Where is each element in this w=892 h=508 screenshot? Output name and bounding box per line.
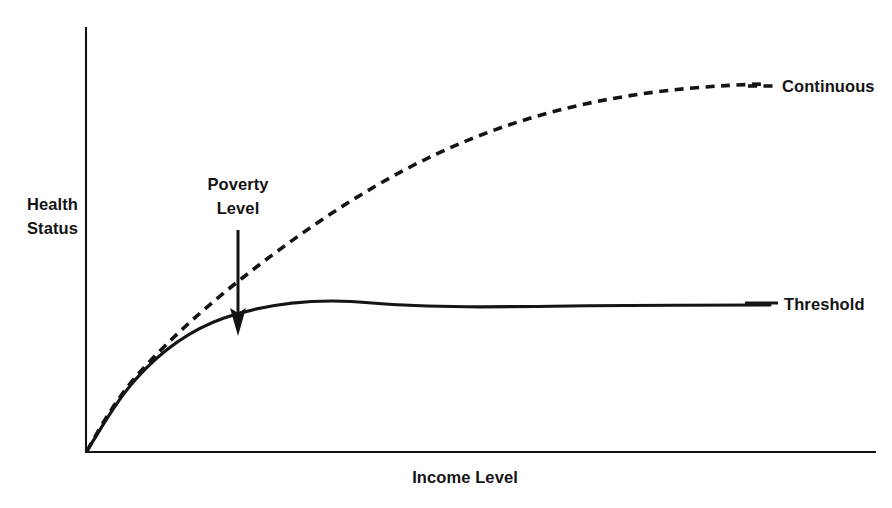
chart-canvas: [0, 0, 892, 508]
poverty-level-annotation: Poverty Level: [178, 172, 298, 220]
y-axis-title: Health Status: [0, 192, 78, 240]
poverty-level-line-1: Poverty: [178, 172, 298, 196]
poverty-level-line-2: Level: [178, 196, 298, 220]
threshold-curve: [87, 301, 770, 451]
y-axis-title-line-2: Status: [0, 216, 78, 240]
threshold-series-label: Threshold: [784, 294, 865, 315]
x-axis-title: Income Level: [385, 467, 545, 488]
continuous-curve: [87, 84, 766, 451]
continuous-series-label: Continuous: [782, 76, 875, 97]
chart-figure: Health Status Income Level Poverty Level…: [0, 0, 892, 508]
y-axis-title-line-1: Health: [0, 192, 78, 216]
